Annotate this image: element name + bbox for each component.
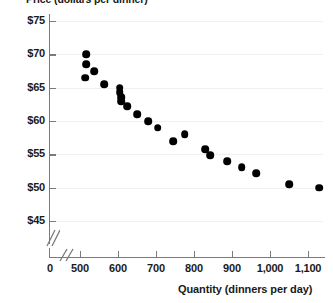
data-point <box>100 81 108 89</box>
data-point <box>238 163 246 171</box>
y-axis-tick-label: $60 <box>27 114 45 126</box>
y-axis-tick-label: $65 <box>27 81 45 93</box>
data-point <box>154 124 162 132</box>
x-axis-tick-label: 0 <box>47 262 53 274</box>
x-axis-tick-label: 600 <box>109 262 127 274</box>
x-axis-tick-label: 800 <box>185 262 203 274</box>
data-point <box>169 137 177 145</box>
y-axis-title: Price (dollars per dinner) <box>26 0 148 5</box>
data-point <box>123 103 131 111</box>
data-point <box>82 61 90 69</box>
data-point <box>144 117 152 125</box>
x-axis-tick-label: 900 <box>223 262 241 274</box>
y-axis-tick-label: $75 <box>27 14 45 26</box>
y-axis-tick-label: $70 <box>27 47 45 59</box>
x-axis-tick-label: 1,100 <box>295 262 322 274</box>
scatter-chart-figure: Price (dollars per dinner) $75$70$65$60$… <box>0 0 333 303</box>
data-point <box>181 131 189 139</box>
data-point <box>223 157 231 165</box>
y-axis-tick-label: $45 <box>27 214 45 226</box>
data-point <box>206 151 214 159</box>
y-axis-tick-label: $55 <box>27 147 45 159</box>
x-axis-tick-label: 700 <box>147 262 165 274</box>
data-point <box>252 169 260 177</box>
data-point <box>82 51 90 59</box>
data-point-layer <box>49 14 325 258</box>
data-point <box>133 111 141 119</box>
x-axis-title: Quantity (dinners per day) <box>178 283 312 295</box>
data-point <box>285 181 293 189</box>
y-axis-tick-label: $50 <box>27 181 45 193</box>
data-point <box>90 67 98 75</box>
x-axis-tick-label: 1,000 <box>257 262 284 274</box>
data-point <box>81 74 89 82</box>
data-point <box>315 184 323 192</box>
